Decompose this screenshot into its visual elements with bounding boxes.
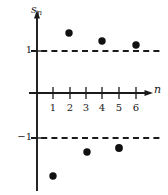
figure-container: sn n 1 −1 1 2 3 4 5 6 <box>0 0 168 195</box>
data-point <box>83 148 90 155</box>
plot-canvas <box>0 0 168 195</box>
y-tick-label-minus-1: −1 <box>4 132 32 142</box>
data-point <box>65 29 72 36</box>
y-axis-label: sn <box>31 4 42 15</box>
x-axis-label: n <box>154 84 161 95</box>
y-axis-label-subscript: n <box>37 8 42 17</box>
data-point <box>49 172 56 179</box>
x-tick-label-6: 6 <box>129 103 143 113</box>
x-tick-label-5: 5 <box>112 103 126 113</box>
x-tick-label-1: 1 <box>46 103 60 113</box>
data-point <box>98 37 105 44</box>
data-point <box>115 144 123 152</box>
x-axis <box>29 90 153 96</box>
x-tick-label-3: 3 <box>79 103 93 113</box>
y-tick-label-1: 1 <box>10 45 32 55</box>
x-tick-label-2: 2 <box>63 103 77 113</box>
data-point <box>132 41 139 48</box>
x-tick-label-4: 4 <box>95 103 109 113</box>
y-axis <box>34 10 40 191</box>
y-axis-label-base: s <box>31 3 37 16</box>
